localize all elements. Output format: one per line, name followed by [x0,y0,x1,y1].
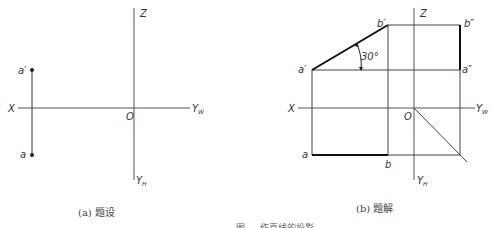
label-a-prime-a: a′ [18,65,27,76]
front-projection-a-prime-b-prime [312,25,388,70]
caption-panel-b: (b) 题解 [356,200,393,215]
caption-panel-a: (a) 题设 [78,204,115,219]
label-b-prime-b: b′ [377,18,386,29]
label-yw-b: YW [476,103,489,115]
label-yh-b: YH [417,175,428,187]
label-x-a: X [7,103,16,114]
label-a-a: a [20,149,26,160]
label-a-double-prime-b: a″ [462,64,472,75]
label-x-b: X [287,103,296,114]
label-b-double-prime-b: b″ [464,18,474,29]
label-o-a: O [126,111,134,122]
label-a-b: a [302,149,308,160]
label-yw-a: YW [192,103,205,115]
projection-diagram: Z X O YW YH a′ a 30° Z X O YW YH a′ [0,0,494,228]
angle-label: 30° [361,51,379,62]
label-a-prime-b: a′ [298,64,307,75]
label-z-b: Z [419,8,428,19]
figure-caption: 图 … 作直线的投影 [236,221,314,228]
label-z-a: Z [139,8,148,19]
label-o-b: O [404,111,412,122]
label-b-b: b [385,159,391,170]
panel-a: Z X O YW YH a′ a [7,8,205,187]
panel-b: 30° Z X O YW YH a′ b′ b″ a″ a b [287,8,489,187]
point-a-prime [30,68,34,72]
point-a [30,153,34,157]
label-yh-a: YH [136,175,147,187]
45-degree-miter-line [414,108,467,162]
